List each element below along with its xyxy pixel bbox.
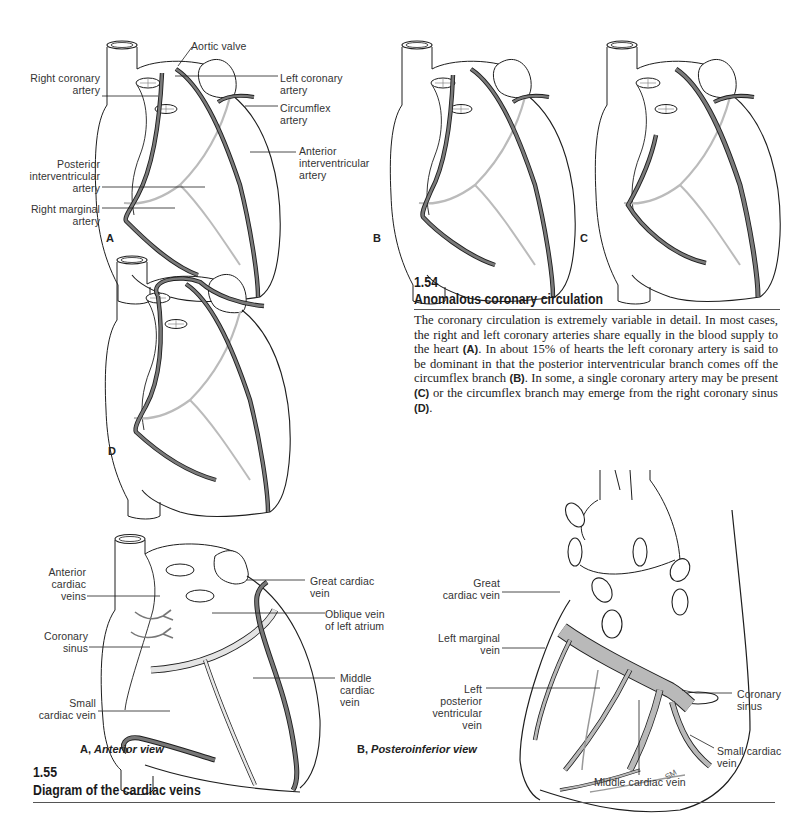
heart-diagram-c [595, 41, 780, 304]
label-oblique-vein-left-atrium: Oblique vein of left atrium [325, 608, 385, 632]
label-coronary-sinus-b: Coronary sinus [737, 688, 781, 712]
veins-anterior-diagram [101, 535, 320, 795]
figure-number-1-55: 1.55 [33, 764, 57, 780]
label-left-coronary-artery: Left coronary artery [280, 72, 343, 96]
title-rule-1-55 [33, 802, 775, 803]
label-aortic-valve: Aortic valve [191, 40, 246, 52]
label-anterior-interventricular-artery: Anterior interventricular artery [299, 145, 369, 181]
panel-letter-a: A [106, 232, 114, 244]
view-label-posteroinferior: B, Posteroinferior view [357, 743, 477, 755]
figure-caption-1-54: The coronary circulation is extremely va… [414, 313, 778, 415]
figure-title-1-55: Diagram of the cardiac veins [33, 782, 201, 798]
label-coronary-sinus-a: Coronary sinus [20, 630, 88, 654]
panel-letter-b: B [373, 232, 381, 244]
figure-number-1-54: 1.54 [414, 274, 438, 290]
heart-diagram-a [95, 41, 280, 304]
view-label-anterior: A, Anterior view [80, 743, 164, 755]
label-circumflex-artery: Circumflex artery [280, 102, 331, 126]
label-posterior-interventricular-artery: Posterior interventricular artery [10, 158, 100, 194]
label-anterior-cardiac-veins: Anterior cardiac veins [20, 566, 86, 602]
label-right-coronary-artery: Right coronary artery [22, 72, 100, 96]
label-left-posterior-ventricular-vein: Left posterior ventricular vein [420, 683, 482, 731]
veins-posteroinferior-diagram: SM [520, 470, 750, 812]
panel-letter-c: C [580, 232, 588, 244]
label-great-cardiac-vein-b: Great cardiac vein [420, 577, 500, 601]
label-middle-cardiac-vein-b: Middle cardiac vein [594, 776, 686, 788]
figure-title-1-54: Anomalous coronary circulation [414, 291, 603, 307]
heart-diagram-b [390, 41, 575, 304]
label-middle-cardiac-vein-a: Middle cardiac vein [340, 672, 375, 708]
label-small-cardiac-vein-b: Small cardiac vein [717, 745, 781, 769]
label-right-marginal-artery: Right marginal artery [10, 203, 100, 227]
label-left-marginal-vein: Left marginal vein [420, 632, 500, 656]
panel-letter-d: D [108, 445, 116, 457]
label-great-cardiac-vein-a: Great cardiac vein [310, 575, 374, 599]
label-small-cardiac-vein-a: Small cardiac vein [20, 697, 96, 721]
title-rule-1-54 [414, 309, 780, 310]
